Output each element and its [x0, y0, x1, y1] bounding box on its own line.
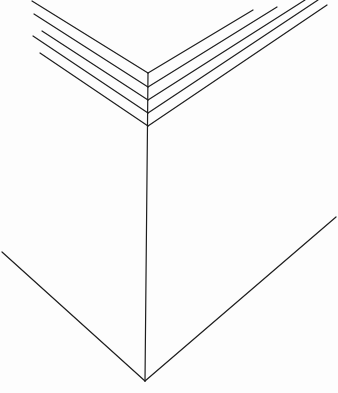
- bottom-left-edge: [2, 252, 145, 381]
- vertical-corner-edge: [145, 73, 148, 381]
- box-corner-drawing: [0, 0, 338, 393]
- top-layer-left-edge-4: [33, 36, 148, 113]
- top-layer-right-edge-1: [148, 10, 253, 73]
- top-layer-right-edge-4: [148, 0, 318, 113]
- top-layer-left-edge-2: [34, 14, 148, 87]
- line-drawing-canvas: [0, 0, 338, 393]
- top-layer-right-edge-5: [148, 5, 327, 126]
- bottom-right-edge: [145, 217, 336, 381]
- top-layer-right-edge-3: [148, 0, 305, 100]
- top-layer-right-edge-2: [148, 7, 277, 87]
